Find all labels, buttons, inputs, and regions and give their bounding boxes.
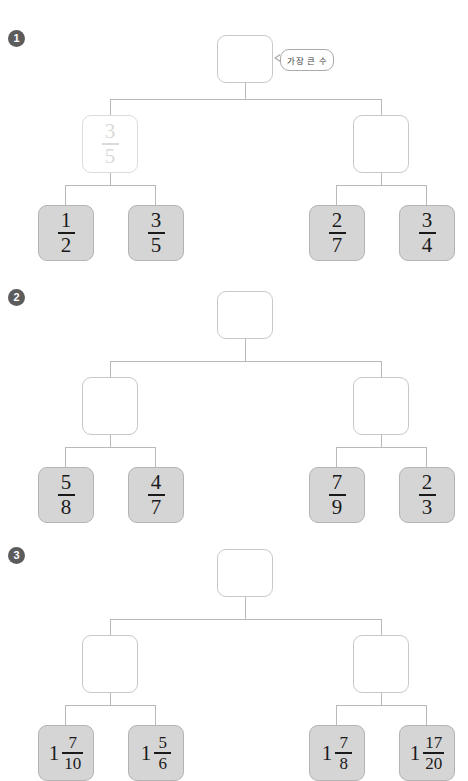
fraction-value: 2 7 [329, 210, 346, 256]
connector-leaf-stem-3 [336, 185, 337, 205]
connector-leaf-crossbar-right [336, 447, 426, 448]
connector-leaf-crossbar-left [65, 705, 155, 706]
connector-mid-left-stem [110, 99, 111, 115]
connector-leaf-stem-1 [65, 185, 66, 205]
connector-mid-right-down [381, 693, 382, 705]
problem-3: 3 1 7 10 1 5 6 [0, 530, 468, 779]
fraction-card[interactable]: 2 3 [399, 467, 455, 523]
fraction-hint-3-5: 3 5 [102, 121, 119, 167]
connector-root-stem [245, 597, 246, 619]
problem-number-badge-3: 3 [8, 547, 25, 564]
answer-box-mid-right-2[interactable] [353, 377, 409, 435]
connector-leaf-stem-1 [65, 447, 66, 467]
connector-mid-right-stem [381, 361, 382, 377]
answer-box-mid-left-3[interactable] [82, 635, 138, 693]
connector-mid-right-down [381, 435, 382, 447]
answer-box-root-3[interactable] [217, 549, 273, 597]
fraction-part: 17 20 [423, 734, 444, 772]
connector-leaf-crossbar-left [65, 185, 155, 186]
connector-root-stem [245, 339, 246, 361]
problem-number-badge-1: 1 [8, 30, 25, 47]
fraction-card[interactable]: 1 2 [38, 205, 94, 261]
mixed-number-value: 1 17 20 [410, 734, 445, 772]
connector-mid-left-stem [110, 361, 111, 377]
connector-mid-left-down [110, 173, 111, 185]
problem-2: 2 5 8 4 7 7 9 2 3 [0, 280, 468, 530]
connector-leaf-stem-4 [426, 447, 427, 467]
connector-leaf-crossbar-right [336, 705, 426, 706]
fraction-value: 4 7 [148, 472, 165, 518]
connector-leaf-stem-2 [155, 705, 156, 725]
mixed-number-card[interactable]: 1 7 8 [309, 725, 365, 781]
connector-root-crossbar [110, 619, 381, 620]
connector-mid-left-stem [110, 619, 111, 635]
connector-leaf-crossbar-left [65, 447, 155, 448]
fraction-card[interactable]: 5 8 [38, 467, 94, 523]
fraction-value: 2 3 [419, 472, 436, 518]
fraction-value: 5 8 [58, 472, 75, 518]
connector-mid-left-down [110, 435, 111, 447]
fraction-value: 3 5 [148, 210, 165, 256]
fraction-value: 7 9 [329, 472, 346, 518]
connector-leaf-stem-3 [336, 447, 337, 467]
answer-box-mid-right-3[interactable] [353, 635, 409, 693]
connector-root-crossbar [110, 361, 381, 362]
connector-mid-left-down [110, 693, 111, 705]
connector-leaf-crossbar-right [336, 185, 426, 186]
connector-leaf-stem-4 [426, 705, 427, 725]
mixed-number-value: 1 7 8 [322, 734, 353, 772]
mixed-number-card[interactable]: 1 17 20 [399, 725, 455, 781]
problem-number-badge-2: 2 [8, 289, 25, 306]
connector-leaf-stem-2 [155, 447, 156, 467]
fraction-part: 5 6 [154, 734, 171, 772]
connector-root-crossbar [110, 99, 381, 100]
mixed-number-value: 1 5 6 [141, 734, 172, 772]
fraction-card[interactable]: 2 7 [309, 205, 365, 261]
mixed-number-value: 1 7 10 [49, 734, 84, 772]
mixed-number-card[interactable]: 1 7 10 [38, 725, 94, 781]
fraction-value: 1 2 [58, 210, 75, 256]
fraction-part: 7 10 [62, 734, 83, 772]
mixed-number-card[interactable]: 1 5 6 [128, 725, 184, 781]
fraction-card[interactable]: 3 4 [399, 205, 455, 261]
fraction-part: 7 8 [335, 734, 352, 772]
connector-leaf-stem-1 [65, 705, 66, 725]
connector-leaf-stem-4 [426, 185, 427, 205]
problem-1: 1 가장 큰 수 3 5 1 2 3 5 [0, 0, 468, 280]
connector-mid-right-down [381, 173, 382, 185]
answer-box-mid-left-2[interactable] [82, 377, 138, 435]
connector-leaf-stem-3 [336, 705, 337, 725]
answer-box-mid-left-1[interactable]: 3 5 [82, 115, 138, 173]
answer-box-root-1[interactable] [217, 35, 273, 83]
answer-box-mid-right-1[interactable] [353, 115, 409, 173]
connector-mid-right-stem [381, 619, 382, 635]
fraction-card[interactable]: 3 5 [128, 205, 184, 261]
fraction-card[interactable]: 7 9 [309, 467, 365, 523]
connector-mid-right-stem [381, 99, 382, 115]
connector-leaf-stem-2 [155, 185, 156, 205]
connector-root-stem [245, 83, 246, 99]
fraction-value: 3 4 [419, 210, 436, 256]
callout-largest-number: 가장 큰 수 [280, 49, 334, 71]
answer-box-root-2[interactable] [217, 291, 273, 339]
fraction-card[interactable]: 4 7 [128, 467, 184, 523]
